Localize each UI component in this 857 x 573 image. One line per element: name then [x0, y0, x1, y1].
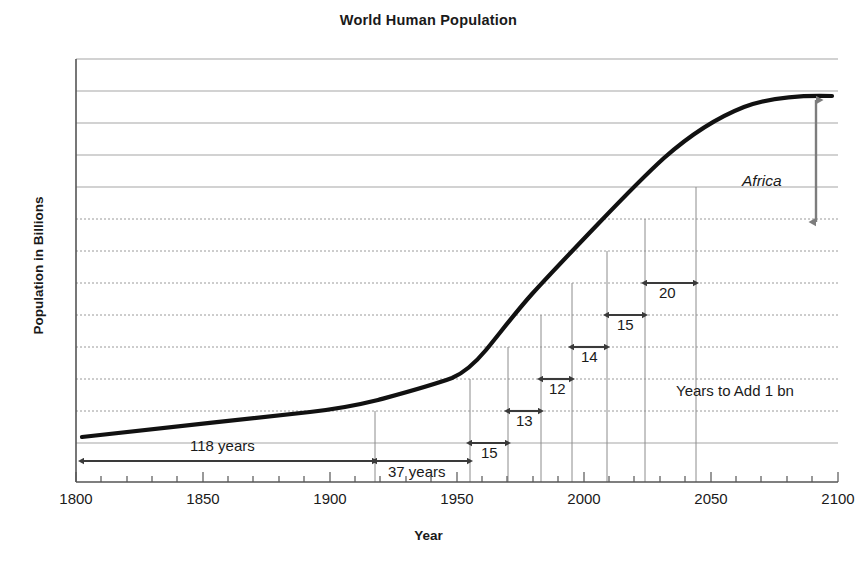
label-12: 12 — [549, 380, 566, 397]
xtick-label-1900: 1900 — [290, 490, 370, 507]
xtick-label-1800: 1800 — [36, 490, 116, 507]
label-20: 20 — [659, 284, 676, 301]
billion-droplines — [375, 187, 696, 482]
xtick-label-2000: 2000 — [544, 490, 624, 507]
label-14: 14 — [581, 348, 598, 365]
xtick-label-2050: 2050 — [671, 490, 751, 507]
xtick-label-1950: 1950 — [417, 490, 497, 507]
label-15a: 15 — [481, 444, 498, 461]
xtick-label-1850: 1850 — [163, 490, 243, 507]
label-years-to-add: Years to Add 1 bn — [676, 382, 794, 399]
plot-area — [0, 0, 857, 573]
label-37-years: 37 years — [388, 463, 446, 480]
label-15b: 15 — [617, 316, 634, 333]
label-africa: Africa — [742, 172, 782, 190]
xtick-label-2100: 2100 — [798, 490, 857, 507]
label-13: 13 — [516, 412, 533, 429]
interval-arrows — [84, 283, 694, 461]
chart-canvas: World Human Population Population in Bil… — [0, 0, 857, 573]
label-118-years: 118 years — [190, 437, 255, 454]
x-axis — [76, 59, 838, 482]
